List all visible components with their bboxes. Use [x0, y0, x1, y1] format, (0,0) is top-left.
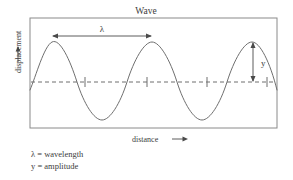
sine-wave-curve — [30, 42, 277, 120]
legend-item-wavelength: λ = wavelength — [31, 149, 84, 159]
legend: λ = wavelength y = amplitude — [31, 149, 84, 171]
wave-diagram-figure: Wave λ y displacement di — [0, 0, 293, 180]
figure-title: Wave — [135, 6, 156, 16]
wavelength-annotation: λ — [52, 24, 152, 39]
arrow-left-icon — [52, 33, 58, 38]
wavelength-symbol-label: λ — [100, 24, 105, 34]
arrow-right-icon — [183, 137, 189, 142]
y-axis-label: displacement — [14, 30, 23, 73]
arrow-down-icon — [251, 76, 256, 82]
y-axis-label-group: displacement — [14, 30, 23, 73]
amplitude-symbol-label: y — [261, 58, 266, 68]
figure-canvas: Wave λ y displacement di — [0, 0, 293, 180]
x-axis-label-group: distance — [132, 135, 188, 144]
plot-frame — [30, 18, 277, 128]
arrow-right-icon — [146, 33, 152, 38]
legend-item-amplitude: y = amplitude — [31, 161, 79, 171]
x-axis-label: distance — [132, 135, 159, 144]
amplitude-annotation: y — [251, 42, 267, 82]
